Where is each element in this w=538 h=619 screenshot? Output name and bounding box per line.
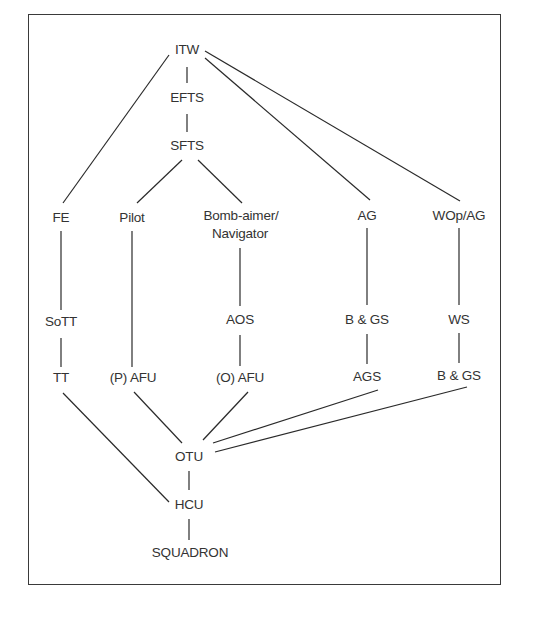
node-fe: FE: [53, 209, 70, 227]
node-otu: OTU: [175, 448, 203, 466]
node-ag: AG: [357, 207, 376, 225]
node-bgs-ag: B & GS: [345, 311, 389, 329]
node-squadron: SQUADRON: [152, 544, 228, 562]
edge-itw-fe: [63, 55, 169, 203]
node-aos: AOS: [226, 311, 254, 329]
node-pilot: Pilot: [119, 209, 144, 227]
edge-sfts-bombaimer: [198, 160, 242, 203]
node-bgs-wop: B & GS: [437, 367, 481, 385]
node-o-afu: (O) AFU: [216, 369, 264, 387]
node-navigator: Navigator: [212, 225, 268, 243]
edge-itw-ag: [205, 58, 370, 200]
node-p-afu: (P) AFU: [110, 369, 157, 387]
node-wop-ag: WOp/AG: [433, 207, 486, 225]
edge-itw-wopag: [205, 51, 460, 201]
node-efts: EFTS: [170, 89, 204, 107]
edge-pafu-otu: [134, 392, 182, 443]
node-ws: WS: [448, 311, 469, 329]
node-bomb-aimer: Bomb-aimer/: [203, 207, 278, 225]
edge-bgs-otu: [215, 387, 467, 452]
edge-oafu-otu: [203, 392, 248, 440]
node-tt: TT: [53, 369, 69, 387]
node-sott: SoTT: [45, 313, 77, 331]
node-ags: AGS: [353, 368, 381, 386]
node-sfts: SFTS: [170, 137, 204, 155]
diagram-edges: [0, 0, 538, 619]
node-itw: ITW: [175, 41, 199, 59]
node-hcu: HCU: [175, 496, 204, 514]
edge-tt-hcu: [63, 393, 169, 502]
edge-sfts-pilot: [137, 160, 182, 203]
